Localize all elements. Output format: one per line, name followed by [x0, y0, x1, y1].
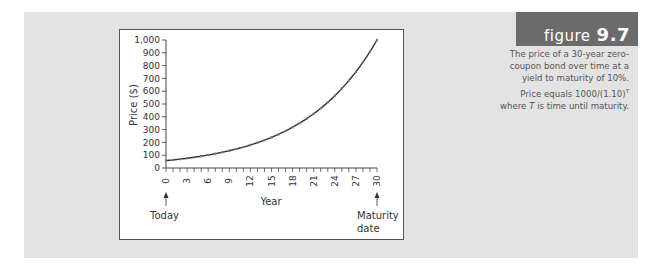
price-curve [166, 40, 377, 161]
data-point-marker [369, 51, 371, 53]
maturity-arrowhead-icon [375, 192, 380, 198]
data-point-marker [292, 126, 294, 128]
data-point-marker [207, 154, 209, 156]
axes [166, 40, 377, 168]
y-tick-label: 800 [143, 61, 160, 71]
y-tick-label: 700 [143, 74, 160, 84]
data-point-marker [179, 158, 181, 160]
curve-markers [165, 39, 378, 162]
maturity-label-line1: Maturity [357, 210, 399, 221]
y-tick-label: 400 [143, 112, 160, 122]
data-point-marker [172, 159, 174, 161]
today-arrowhead-icon [164, 192, 169, 198]
y-tick-label: 1,000 [134, 35, 160, 45]
x-tick-label: 30 [372, 175, 382, 187]
data-point-marker [334, 95, 336, 97]
x-axis-ticks: 036912151821242730 [161, 168, 382, 187]
data-point-marker [221, 151, 223, 153]
bond-price-chart: 01002003004005006007008009001,000 036912… [0, 0, 666, 271]
y-tick-label: 100 [143, 150, 160, 160]
x-tick-label: 18 [288, 175, 298, 187]
x-tick-label: 15 [267, 175, 277, 186]
x-tick-label: 9 [224, 178, 234, 184]
data-point-marker [348, 79, 350, 81]
maturity-annotation: Maturity date [357, 192, 399, 234]
data-point-marker [242, 146, 244, 148]
data-point-marker [200, 155, 202, 157]
y-tick-label: 900 [143, 48, 160, 58]
data-point-marker [341, 87, 343, 89]
x-tick-label: 21 [309, 175, 319, 186]
data-point-marker [327, 101, 329, 103]
data-point-marker [165, 160, 167, 162]
x-tick-label: 6 [203, 178, 213, 184]
y-tick-label: 500 [143, 99, 160, 109]
data-point-marker [284, 130, 286, 132]
today-annotation: Today [149, 192, 179, 221]
y-tick-label: 300 [143, 125, 160, 135]
data-point-marker [355, 71, 357, 73]
data-point-marker [306, 118, 308, 120]
data-point-marker [235, 148, 237, 150]
data-point-marker [193, 156, 195, 158]
data-point-marker [376, 39, 378, 41]
data-point-marker [228, 150, 230, 152]
x-tick-label: 3 [182, 178, 192, 184]
data-point-marker [362, 61, 364, 63]
data-point-marker [214, 153, 216, 155]
x-tick-label: 12 [245, 175, 255, 186]
today-label: Today [149, 210, 179, 221]
data-point-marker [313, 113, 315, 115]
data-point-marker [186, 157, 188, 159]
data-point-marker [277, 133, 279, 135]
y-tick-label: 600 [143, 86, 160, 96]
data-point-marker [256, 142, 258, 144]
x-axis-label: Year [259, 196, 282, 207]
x-tick-label: 0 [161, 178, 171, 184]
x-tick-label: 27 [351, 175, 361, 186]
data-point-marker [270, 136, 272, 138]
y-tick-label: 0 [154, 163, 160, 173]
y-axis-label: Price ($) [128, 84, 139, 126]
data-point-marker [299, 122, 301, 124]
maturity-label-line2: date [357, 223, 380, 234]
data-point-marker [249, 144, 251, 146]
x-tick-label: 24 [330, 175, 340, 187]
data-point-marker [320, 107, 322, 109]
data-point-marker [263, 139, 265, 141]
y-tick-label: 200 [143, 138, 160, 148]
